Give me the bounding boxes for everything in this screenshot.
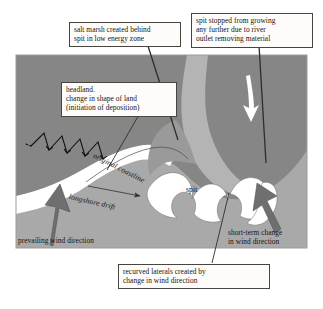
label-prevailing-wind-direction: prevailing wind direction: [18, 236, 94, 245]
callout-headland: headland. change in shape of land (initi…: [61, 82, 177, 117]
callout-river-outlet: spit stopped from growing any further du…: [191, 13, 313, 48]
spit-formation-diagram: salt marsh created behind spit in low en…: [0, 0, 323, 309]
label-short-term-wind-change: short-term change in wind direction: [228, 228, 282, 246]
label-spit: spit: [186, 185, 198, 194]
callout-salt-marsh: salt marsh created behind spit in low en…: [69, 22, 181, 47]
callout-recurved-laterals: recurved laterals created by change in w…: [118, 264, 270, 289]
